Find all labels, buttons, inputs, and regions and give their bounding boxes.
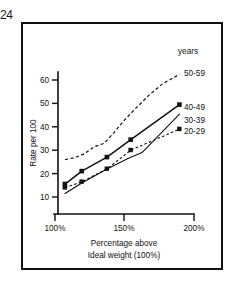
y-tick-label-10: 10 (40, 193, 50, 202)
x-axis-ticks (55, 214, 194, 221)
series-markers-40-49 (63, 102, 182, 186)
x-axis-title-line1: Percentage above (91, 239, 158, 248)
legend-label-20-29: 20-29 (184, 127, 205, 136)
legend-label-40-49: 40-49 (184, 103, 205, 112)
y-tick-label-30: 30 (40, 146, 50, 155)
figure-frame: 60 50 40 30 20 10 100% 150% 200% Rate pe… (21, 22, 223, 270)
x-tick-label-150: 150% (114, 224, 135, 233)
legend-label-50-59: 50-59 (184, 69, 205, 78)
x-axis-title-line2: Ideal weight (100%) (88, 251, 161, 260)
x-axis-tick-labels: 100% 150% 200% (45, 224, 205, 233)
x-tick-label-200: 200% (184, 224, 205, 233)
page-number: 24 (0, 8, 12, 22)
legend-title: years (178, 47, 198, 56)
series-line-20-29 (65, 129, 180, 188)
chart-canvas: 60 50 40 30 20 10 100% 150% 200% Rate pe… (23, 24, 221, 268)
y-tick-label-40: 40 (40, 123, 50, 132)
y-tick-label-50: 50 (40, 99, 50, 108)
legend-label-30-39: 30-39 (184, 116, 205, 125)
y-axis-title: Rate per 100 (29, 119, 38, 167)
y-axis-ticks (52, 80, 58, 197)
y-tick-label-20: 20 (40, 170, 50, 179)
y-axis-tick-labels: 60 50 40 30 20 10 (40, 76, 50, 202)
y-tick-label-60: 60 (40, 76, 50, 85)
x-tick-label-100: 100% (45, 224, 66, 233)
